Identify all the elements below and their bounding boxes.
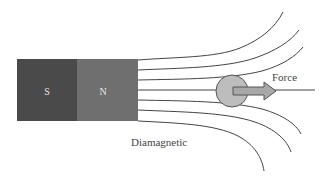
south-pole-label: S: [44, 86, 50, 97]
bar-magnet: [17, 59, 138, 121]
field-line-1: [138, 12, 283, 60]
force-label: Force: [272, 71, 297, 83]
diagram-svg: S N Force Diamagnetic: [0, 0, 329, 182]
diamagnetic-force-diagram: S N Force Diamagnetic: [0, 0, 329, 182]
field-line-2: [138, 30, 299, 70]
diamagnetic-label: Diamagnetic: [131, 136, 187, 148]
magnet-north-pole: [77, 59, 138, 121]
north-pole-label: N: [99, 86, 106, 97]
